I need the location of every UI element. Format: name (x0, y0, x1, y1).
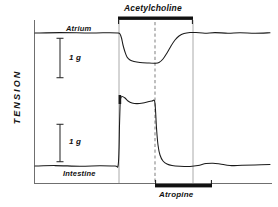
trace-intestine (35, 96, 270, 167)
drug-label-atropine: Atropine (159, 190, 194, 199)
scale-label-intestine: 1 g (69, 137, 81, 146)
trace-label-intestine: Intestine (63, 169, 96, 178)
scale-bar-intestine (57, 124, 64, 162)
trace-label-atrium: Atrium (66, 24, 91, 33)
axis-frame (34, 20, 272, 184)
intestine-onset-mark (119, 95, 122, 104)
scale-label-atrium: 1 g (69, 53, 81, 62)
figure-canvas (0, 0, 278, 207)
figure-container: Acetylcholine Atrium Intestine Atropine … (0, 0, 278, 207)
atropine-bar (155, 184, 212, 187)
acetylcholine-bar (118, 17, 193, 20)
drug-label-acetylcholine: Acetylcholine (124, 3, 182, 13)
y-axis-label: TENSION (12, 52, 22, 142)
event-markers (119, 20, 193, 183)
scale-bar-atrium (57, 38, 64, 78)
